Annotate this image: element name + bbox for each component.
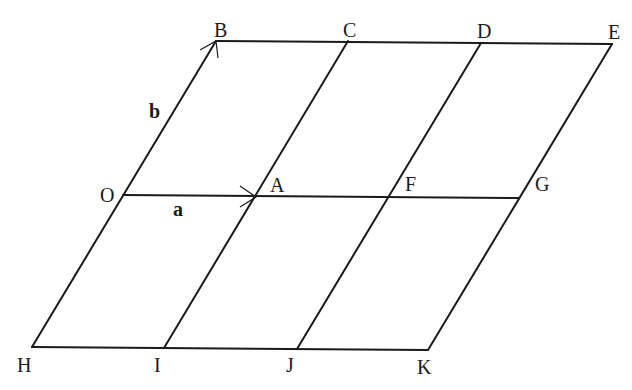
point-label-E: E	[608, 22, 620, 42]
point-label-A: A	[270, 175, 284, 195]
line-B-E	[216, 41, 612, 44]
point-label-F: F	[405, 174, 416, 194]
point-label-D: D	[477, 21, 491, 41]
vector-label-a: a	[173, 199, 183, 219]
point-label-O: O	[100, 185, 114, 205]
point-label-G: G	[535, 174, 549, 194]
line-H-B	[32, 41, 216, 347]
point-label-K: K	[417, 357, 431, 377]
vector-grid-diagram: B C D E O A F G H I J K b a	[0, 0, 632, 390]
line-I-C	[164, 41, 348, 348]
diagram-canvas	[0, 0, 632, 390]
point-label-C: C	[343, 20, 356, 40]
vector-label-b: b	[149, 101, 160, 121]
point-label-H: H	[17, 355, 31, 375]
point-label-B: B	[214, 20, 227, 40]
point-label-J: J	[286, 355, 294, 375]
point-label-I: I	[154, 355, 161, 375]
line-H-K	[32, 347, 428, 350]
